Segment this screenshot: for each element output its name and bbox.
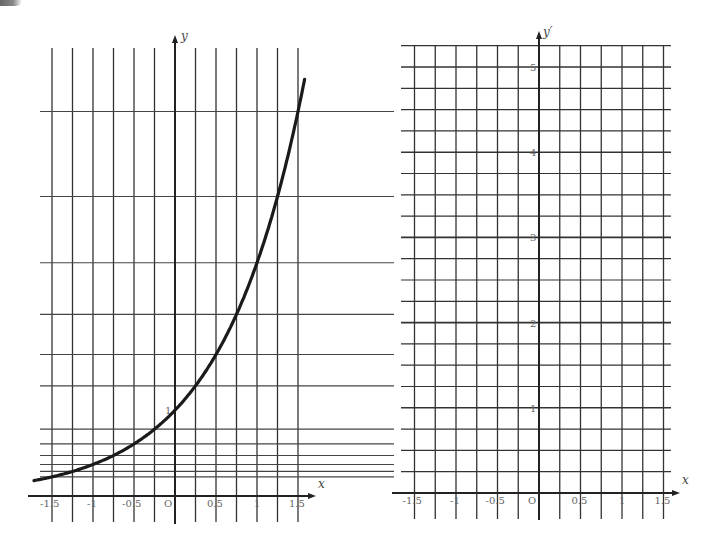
x-tick-label: 1.5 <box>289 498 305 509</box>
x-axis-arrow-icon <box>672 490 680 496</box>
y-axis-arrow-icon <box>172 35 178 43</box>
x-tick-label: -1.5 <box>40 498 59 509</box>
y-tick-label: 4 <box>530 147 536 158</box>
x-tick-label: -0.5 <box>122 498 141 509</box>
exponential-curve <box>34 79 305 480</box>
y-axis-label: y <box>180 29 188 43</box>
y-tick-label: 3 <box>530 232 536 243</box>
y-tick-label: 2 <box>530 318 536 329</box>
y-axis-label: y′ <box>542 25 553 39</box>
x-tick-label: 1 <box>619 495 625 506</box>
y-axis-arrow-icon <box>536 31 542 39</box>
x-tick-label: 0.5 <box>207 498 223 509</box>
y-tick-label: 5 <box>530 62 536 73</box>
x-axis-label: x <box>682 473 689 487</box>
x-tick-label: -1 <box>450 495 460 506</box>
right-graph: y′x-1.5-1-0.5O0.511.512345 <box>392 25 689 520</box>
x-tick-label: -1.5 <box>403 495 422 506</box>
figure: yx-1.5-1-0.5O0.511.51 y′x-1.5-1-0.5O0.51… <box>0 0 709 541</box>
x-tick-label: 1.5 <box>655 495 671 506</box>
x-tick-label: O <box>164 498 172 509</box>
x-tick-label: 0.5 <box>572 495 588 506</box>
x-tick-label: 1 <box>254 498 260 509</box>
left-graph: yx-1.5-1-0.5O0.511.51 <box>28 29 394 524</box>
x-tick-label: O <box>528 495 536 506</box>
y-tick-label: 1 <box>530 403 536 414</box>
x-axis-label: x <box>318 477 325 491</box>
x-tick-label: -0.5 <box>486 495 505 506</box>
x-tick-label: -1 <box>87 498 97 509</box>
x-axis-arrow-icon <box>308 493 316 499</box>
